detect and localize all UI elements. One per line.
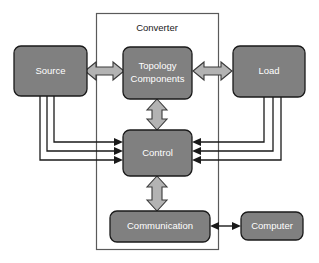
topology-control-double-arrow-shape: [147, 99, 167, 130]
node-source[interactable]: Source: [14, 46, 87, 96]
block-arrow-control-to-communication: [147, 176, 167, 211]
block-arrow-topology-to-load: [193, 62, 232, 80]
topology-components-label-line1: Topology: [138, 60, 176, 71]
diagram-canvas: Converter: [0, 0, 319, 263]
block-arrow-topology-to-control: [147, 99, 167, 130]
converter-label: Converter: [136, 22, 178, 33]
node-topology-components[interactable]: Topology Components: [123, 47, 192, 99]
load-signal-arrowhead-2: [192, 147, 201, 155]
converter-block-diagram: Converter: [0, 0, 319, 263]
control-label: Control: [142, 147, 173, 158]
load-control-arrowheads: [192, 138, 201, 164]
source-signal-arrowhead-1: [114, 138, 123, 146]
topology-load-double-arrow-shape: [193, 62, 232, 80]
source-label: Source: [35, 65, 65, 76]
source-signal-arrowhead-3: [114, 156, 123, 164]
source-control-arrowheads: [114, 138, 123, 164]
load-signal-arrowhead-3: [192, 156, 201, 164]
node-load[interactable]: Load: [233, 46, 305, 97]
load-signal-arrowhead-1: [192, 138, 201, 146]
load-control-signal-group: [197, 97, 281, 160]
node-communication[interactable]: Communication: [110, 211, 210, 242]
node-computer[interactable]: Computer: [241, 212, 303, 240]
communication-label: Communication: [127, 220, 193, 231]
control-communication-double-arrow-shape: [147, 176, 167, 211]
source-signal-line-1: [54, 96, 118, 142]
source-control-signal-group: [40, 96, 118, 160]
topology-components-label-line2: Components: [131, 73, 185, 84]
communication-computer-arrowhead-right: [232, 222, 241, 230]
link-communication-to-computer: [210, 222, 241, 230]
load-signal-line-1: [197, 97, 264, 142]
node-control[interactable]: Control: [123, 130, 192, 176]
source-signal-arrowhead-2: [114, 147, 123, 155]
load-label: Load: [258, 65, 279, 76]
block-arrow-source-to-topology: [85, 62, 124, 80]
source-topology-double-arrow-shape: [85, 62, 124, 80]
source-signal-line-2: [47, 96, 118, 151]
load-signal-line-2: [197, 97, 273, 151]
computer-label: Computer: [251, 220, 293, 231]
communication-computer-arrowhead-left: [210, 222, 219, 230]
